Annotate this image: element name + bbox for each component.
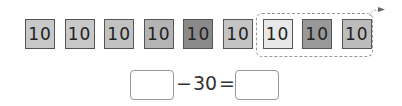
answer-blank-left[interactable] — [130, 70, 174, 100]
ten-tile: 10 — [144, 19, 174, 49]
equals-sign: = — [219, 72, 235, 94]
subtrahend: 30 — [193, 72, 217, 94]
ten-tile: 10 — [65, 19, 95, 49]
ten-tile: 10 — [183, 19, 213, 49]
arrow-icon — [368, 4, 390, 18]
equation: − 30 = — [0, 70, 402, 100]
ten-tile: 10 — [342, 19, 372, 49]
ten-tile: 10 — [223, 19, 253, 49]
ten-tile: 10 — [25, 19, 55, 49]
ten-tile: 10 — [263, 19, 293, 49]
ten-tile: 10 — [104, 19, 134, 49]
ten-tile: 10 — [302, 19, 332, 49]
minus-sign: − — [176, 72, 192, 94]
answer-blank-right[interactable] — [235, 70, 279, 100]
